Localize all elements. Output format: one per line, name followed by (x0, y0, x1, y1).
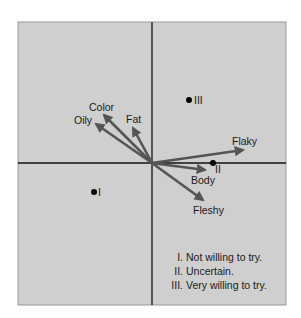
label-flaky: Flaky (232, 135, 258, 147)
point-i-label: I (98, 186, 101, 198)
label-color: Color (89, 101, 115, 113)
legend-numeral-2: II. (174, 265, 183, 277)
label-fleshy: Fleshy (193, 204, 225, 216)
label-body: Body (191, 174, 216, 186)
biplot-chart: Color Oily Fat Flaky Body Fleshy I II II… (0, 0, 301, 318)
legend-numeral-1: I. (177, 251, 183, 263)
legend-text-2: Uncertain. (186, 265, 234, 277)
label-fat: Fat (126, 113, 141, 125)
point-i (91, 189, 97, 195)
point-ii-label: II (215, 163, 221, 175)
label-oily: Oily (74, 114, 93, 126)
legend-numeral-3: III. (171, 279, 183, 291)
legend-text-1: Not willing to try. (186, 251, 262, 263)
point-iii-label: III (194, 94, 203, 106)
legend-text-3: Very willing to try. (186, 279, 267, 291)
point-iii (186, 97, 192, 103)
